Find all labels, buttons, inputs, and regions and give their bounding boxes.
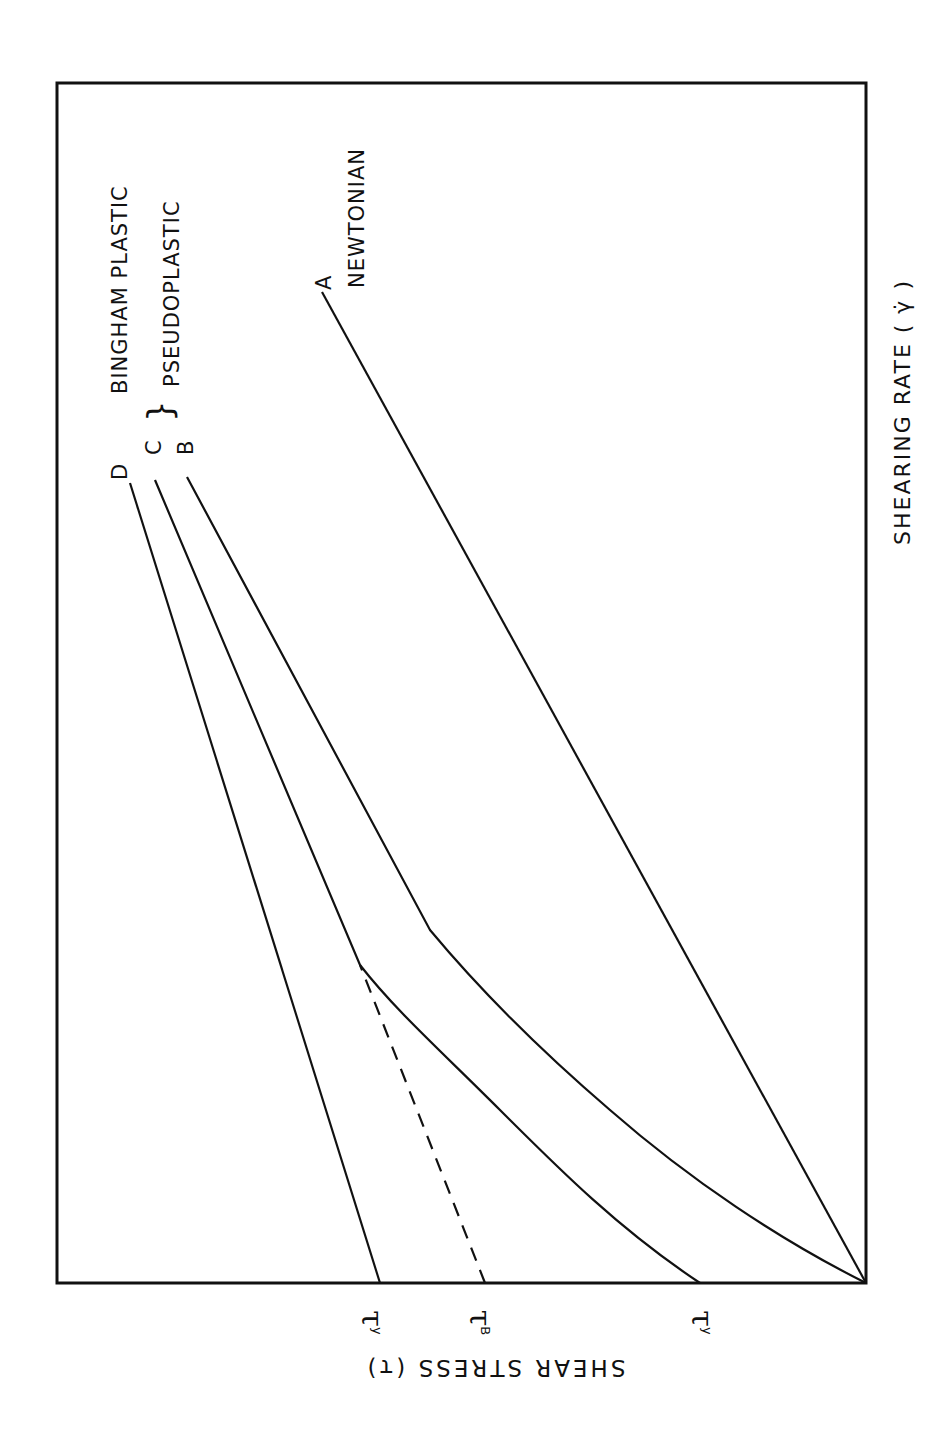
label-curve-a: A bbox=[312, 275, 336, 290]
tau-subscript: y bbox=[370, 1327, 385, 1335]
x-axis-title: SHEARING RATE ( γ̇ ) bbox=[890, 279, 915, 545]
tau-symbol: τ bbox=[463, 1310, 498, 1327]
tau-subscript: y bbox=[700, 1327, 715, 1335]
curve-c-extrapolation bbox=[360, 965, 485, 1283]
tick-tau-y-lower: τy bbox=[685, 1310, 720, 1334]
label-newtonian: NEWTONIAN bbox=[345, 148, 369, 288]
label-curve-d: D bbox=[108, 463, 132, 480]
label-curve-b: B bbox=[174, 440, 198, 455]
y-axis-title: SHEAR STRESS (τ) bbox=[335, 1355, 655, 1381]
tick-tau-b: τB bbox=[463, 1310, 498, 1336]
curve-b-pseudoplastic bbox=[187, 477, 866, 1283]
curve-a-newtonian bbox=[322, 292, 866, 1283]
label-pseudoplastic: PSEUDOPLASTIC bbox=[160, 200, 184, 387]
rheology-chart bbox=[0, 0, 925, 1442]
label-bingham-plastic: BINGHAM PLASTIC bbox=[108, 185, 132, 394]
tau-subscript: B bbox=[478, 1326, 493, 1335]
tick-tau-y-upper: τy bbox=[355, 1310, 390, 1334]
tau-symbol: τ bbox=[685, 1310, 720, 1327]
curve-c-pseudoplastic bbox=[155, 480, 700, 1283]
label-curve-c: C bbox=[142, 439, 166, 455]
pseudoplastic-brace: } bbox=[140, 400, 180, 422]
tau-symbol: τ bbox=[355, 1310, 390, 1327]
